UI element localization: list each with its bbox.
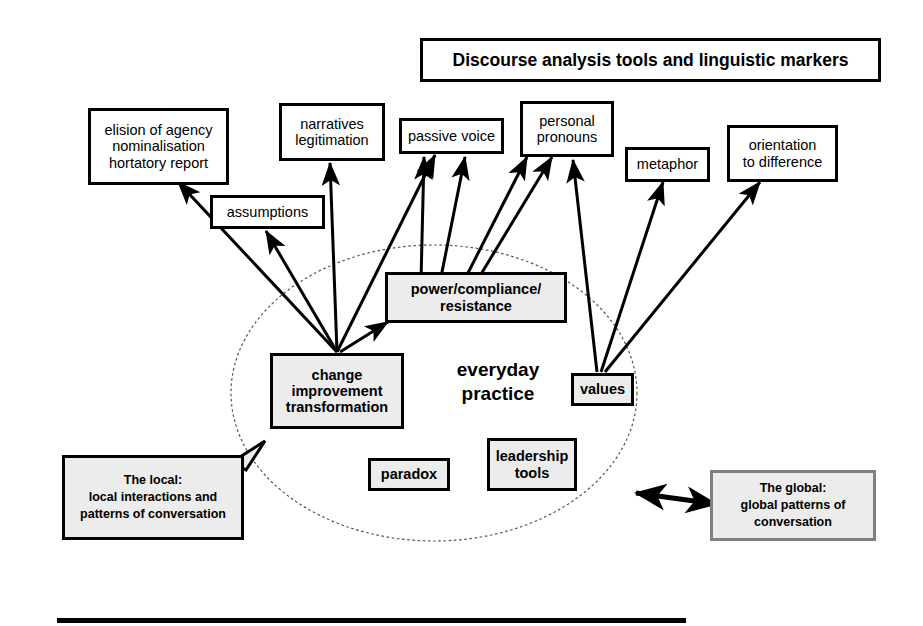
diagram-title: Discourse analysis tools and linguistic … — [420, 38, 881, 82]
node-leadership-tools[interactable]: leadership tools — [487, 438, 577, 491]
callout-the-global[interactable]: The global: global patterns of conversat… — [710, 470, 876, 541]
node-change-improvement-transformation[interactable]: change improvement transformation — [270, 353, 404, 429]
node-metaphor[interactable]: metaphor — [625, 147, 710, 182]
node-assumptions[interactable]: assumptions — [210, 195, 325, 229]
everyday-practice-line1: everyday — [418, 358, 578, 382]
everyday-practice-line2: practice — [418, 382, 578, 406]
callout-the-local[interactable]: The local: local interactions and patter… — [62, 455, 244, 540]
everyday-practice-label: everyday practice — [418, 358, 578, 406]
node-elision-of-agency-label: elision of agency nominalisation hortato… — [100, 122, 216, 171]
node-change-improvement-transformation-label: change improvement transformation — [282, 367, 392, 416]
bottom-divider — [57, 618, 686, 623]
callout-the-global-text: The global: global patterns of conversat… — [741, 480, 846, 531]
node-narratives-legitimation[interactable]: narratives legitimation — [279, 103, 385, 161]
node-metaphor-label: metaphor — [633, 156, 702, 172]
diagram-canvas: Discourse analysis tools and linguistic … — [0, 0, 923, 626]
node-passive-voice-label: passive voice — [404, 128, 499, 144]
node-narratives-legitimation-label: narratives legitimation — [291, 116, 372, 148]
node-leadership-tools-label: leadership tools — [492, 448, 573, 480]
node-orientation-to-difference[interactable]: orientation to difference — [727, 125, 838, 182]
callout-the-local-text: The local: local interactions and patter… — [62, 455, 244, 540]
node-assumptions-label: assumptions — [223, 204, 312, 220]
node-passive-voice[interactable]: passive voice — [399, 118, 504, 154]
diagram-title-text: Discourse analysis tools and linguistic … — [453, 50, 849, 71]
node-power-compliance-resistance[interactable]: power/compliance/ resistance — [385, 272, 567, 323]
node-paradox[interactable]: paradox — [368, 458, 450, 491]
node-personal-pronouns-label: personal pronouns — [533, 113, 601, 145]
node-values-label: values — [576, 381, 629, 397]
node-paradox-label: paradox — [377, 466, 441, 482]
node-elision-of-agency[interactable]: elision of agency nominalisation hortato… — [88, 108, 229, 185]
node-personal-pronouns[interactable]: personal pronouns — [520, 101, 614, 157]
node-power-compliance-resistance-label: power/compliance/ resistance — [407, 281, 546, 313]
node-orientation-to-difference-label: orientation to difference — [739, 137, 827, 169]
global-double-arrow — [636, 493, 716, 504]
node-values[interactable]: values — [571, 373, 634, 406]
